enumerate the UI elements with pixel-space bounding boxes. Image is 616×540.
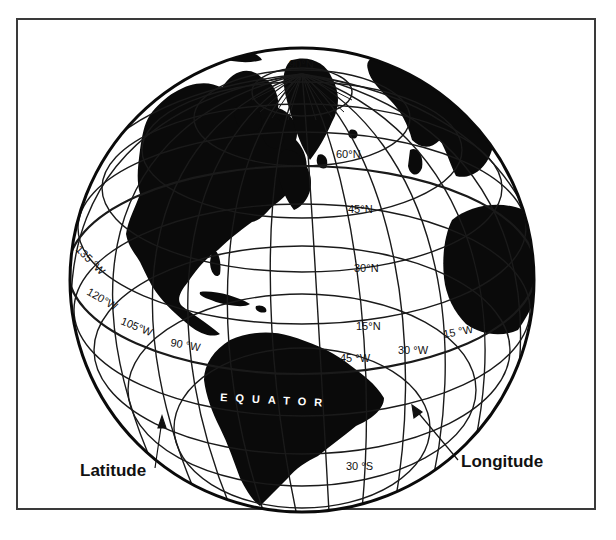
lat-label-45n: 45°N [348, 203, 373, 215]
longitude-callout: Longitude [461, 452, 543, 471]
lon-label-30w: 30 °W [398, 344, 429, 356]
lon-label-45w: 45 °W [340, 352, 371, 364]
lat-label-30s: 30 °S [346, 460, 373, 472]
lat-label-60n: 60°N [336, 148, 361, 160]
globe: 90°N 60°N 45°N 30°N 15°N 30 °S 135 °W 12… [0, 0, 616, 540]
pole-label: 90°N [289, 58, 314, 70]
lat-label-15n: 15°N [356, 320, 381, 332]
lat-label-30n: 30°N [354, 262, 379, 274]
latitude-callout: Latitude [80, 461, 146, 480]
